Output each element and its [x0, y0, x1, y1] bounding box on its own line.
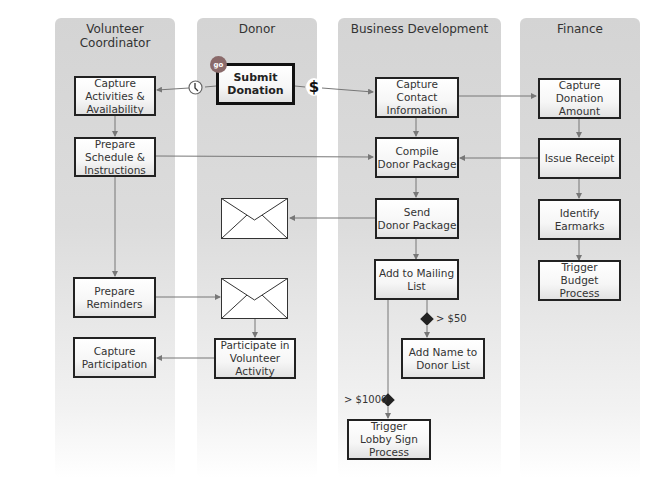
node-issue-receipt[interactable]: Issue Receipt: [538, 138, 621, 179]
node-capture-activities[interactable]: Capture Activities & Availability: [74, 76, 156, 116]
node-capture-amount[interactable]: Capture Donation Amount: [538, 78, 621, 119]
node-add-mailing[interactable]: Add to Mailing List: [374, 259, 459, 300]
node-capture-contact[interactable]: Capture Contact Information: [375, 77, 459, 118]
node-participate[interactable]: Participate in Volunteer Activity: [214, 338, 296, 379]
node-prepare-schedule[interactable]: Prepare Schedule & Instructions: [74, 137, 156, 177]
condition-label-gt50: > $50: [436, 313, 467, 324]
node-compile-package[interactable]: Compile Donor Package: [375, 137, 459, 178]
node-add-name[interactable]: Add Name to Donor List: [401, 338, 485, 379]
clock-icon: [188, 80, 203, 95]
node-submit-donation[interactable]: Submit Donation: [216, 63, 295, 105]
connectors: [0, 0, 663, 485]
node-prepare-reminders[interactable]: Prepare Reminders: [73, 277, 156, 318]
node-trigger-budget[interactable]: Trigger Budget Process: [538, 260, 621, 301]
node-send-package[interactable]: Send Donor Package: [375, 198, 459, 239]
node-capture-participation[interactable]: Capture Participation: [73, 337, 156, 378]
node-trigger-lobby[interactable]: Trigger Lobby Sign Process: [347, 419, 431, 460]
envelope-icon: [221, 278, 288, 319]
condition-label-gt1000: > $1000: [344, 394, 387, 405]
envelope-icon: [221, 198, 288, 239]
node-identify-earmarks[interactable]: Identify Earmarks: [538, 199, 621, 240]
go-start-icon: go: [210, 56, 227, 73]
dollar-icon: $: [306, 78, 322, 96]
